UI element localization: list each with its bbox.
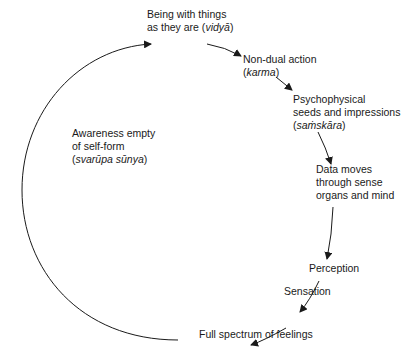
edge-vidya-karma [207, 44, 241, 56]
edge-feelings-vidya [22, 44, 178, 340]
node-perception: Perception [309, 262, 359, 275]
node-data: Data moves through sense organs and mind [316, 163, 394, 202]
node-vidya: Being with things as they are (vidyā) [147, 8, 233, 34]
node-awareness: Awareness empty of self-form (svarūpa sū… [72, 127, 155, 166]
node-feelings: Full spectrum of feelings [199, 328, 313, 341]
node-sensation: Sensation [284, 285, 331, 298]
node-karma: Non-dual action (karma) [243, 53, 317, 79]
cycle-diagram: Being with things as they are (vidyā) No… [0, 0, 408, 364]
edge-data-perception [327, 207, 333, 259]
edge-samskara-data [318, 132, 331, 164]
node-samskara: Psychophysical seeds and impressions (sa… [293, 93, 400, 132]
